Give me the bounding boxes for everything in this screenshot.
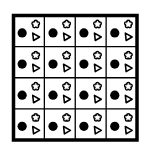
triangle-icon [94, 95, 101, 102]
flower-center [95, 115, 99, 119]
flower-icon [32, 20, 40, 27]
circle-icon [48, 91, 57, 100]
triangle-icon [64, 95, 71, 102]
triangle-icon [125, 127, 132, 134]
circle-icon [18, 28, 27, 37]
flower-icon [32, 51, 40, 58]
circle-icon [79, 59, 88, 68]
triangle-icon [125, 64, 132, 71]
triangle-icon [125, 95, 132, 102]
flower-icon [63, 20, 71, 27]
flower-center [126, 84, 130, 88]
flower-icon [63, 114, 71, 121]
flower-center [126, 53, 130, 57]
triangle-icon [94, 64, 101, 71]
flower-center [34, 53, 38, 57]
flower-icon [94, 51, 102, 58]
triangle-icon [64, 127, 71, 134]
flower-center [64, 53, 68, 57]
circle-icon [79, 91, 88, 100]
puzzle-grid [0, 0, 149, 147]
flower-icon [125, 83, 133, 90]
flower-center [126, 115, 130, 119]
circle-icon [79, 122, 88, 131]
triangle-icon [64, 33, 71, 40]
triangle-icon [33, 33, 40, 40]
flower-icon [125, 114, 133, 121]
flower-icon [63, 51, 71, 58]
circle-icon [79, 28, 88, 37]
circle-icon [110, 122, 119, 131]
circle-icon [18, 59, 27, 68]
flower-center [34, 115, 38, 119]
triangle-icon [94, 127, 101, 134]
flower-icon [125, 51, 133, 58]
flower-icon [32, 114, 40, 121]
triangle-icon [125, 33, 132, 40]
flower-icon [63, 83, 71, 90]
triangle-icon [33, 95, 40, 102]
circle-icon [18, 122, 27, 131]
flower-icon [94, 20, 102, 27]
circle-icon [110, 91, 119, 100]
circle-icon [48, 122, 57, 131]
flower-center [34, 22, 38, 26]
flower-icon [125, 20, 133, 27]
triangle-icon [64, 64, 71, 71]
flower-center [64, 22, 68, 26]
triangle-icon [33, 64, 40, 71]
triangle-icon [33, 127, 40, 134]
flower-center [64, 115, 68, 119]
flower-icon [94, 83, 102, 90]
flower-center [95, 22, 99, 26]
circle-icon [48, 28, 57, 37]
circle-icon [18, 91, 27, 100]
circle-icon [110, 28, 119, 37]
circle-icon [48, 59, 57, 68]
flower-icon [32, 83, 40, 90]
flower-center [64, 84, 68, 88]
circle-icon [110, 59, 119, 68]
flower-center [126, 22, 130, 26]
flower-icon [94, 114, 102, 121]
flower-center [95, 84, 99, 88]
triangle-icon [94, 33, 101, 40]
flower-center [34, 84, 38, 88]
flower-center [95, 53, 99, 57]
